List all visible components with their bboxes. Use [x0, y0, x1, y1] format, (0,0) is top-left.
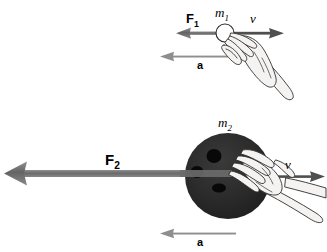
label-force-f1: F1 — [186, 12, 199, 28]
force-arrow-f2-overlay — [180, 170, 232, 177]
figure-vector-canvas — [0, 0, 327, 252]
bottom-panel-group — [4, 133, 326, 238]
label-force-f2: F2 — [105, 152, 120, 171]
physics-figure: F1 m1 v a m2 F2 v a — [0, 0, 327, 252]
finger-hole-1 — [207, 149, 222, 163]
label-velocity-top: v — [250, 12, 256, 25]
label-velocity-bottom: v — [285, 158, 291, 171]
label-mass-m1: m1 — [215, 6, 229, 22]
finger-hole-3 — [212, 184, 226, 193]
label-mass-m2: m2 — [218, 116, 232, 132]
label-acceleration-bottom: a — [197, 237, 203, 248]
hand-top — [222, 33, 294, 100]
top-panel-group — [160, 24, 293, 100]
label-acceleration-top: a — [197, 60, 203, 71]
